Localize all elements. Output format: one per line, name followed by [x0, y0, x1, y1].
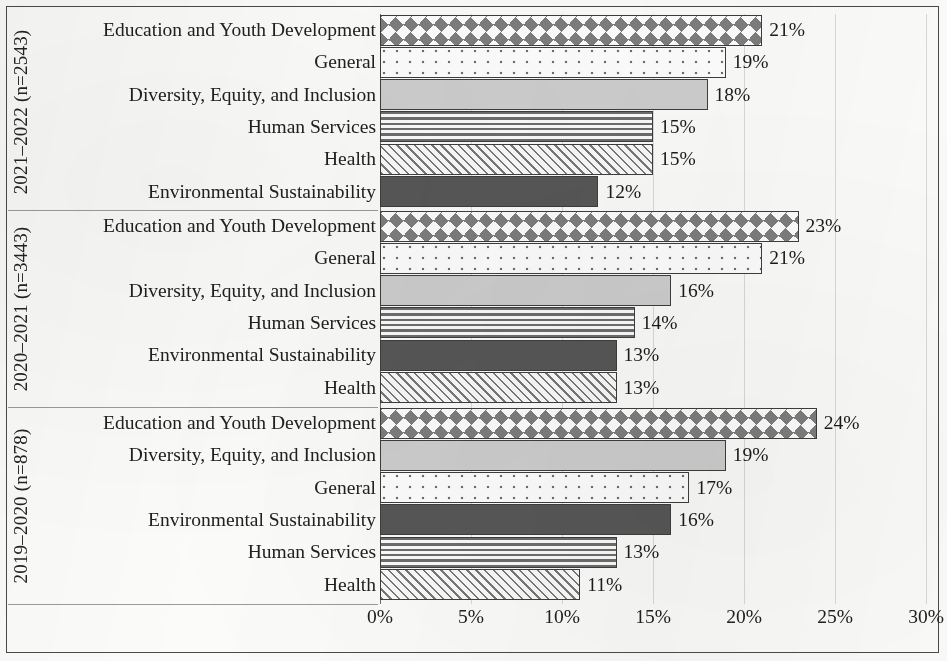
bar-row: Diversity, Equity, and Inclusion 19%	[380, 439, 929, 471]
category-label: Environmental Sustainability	[148, 176, 376, 208]
bar-row: Education and Youth Development 21%	[380, 14, 929, 46]
bar-value-label: 11%	[580, 569, 622, 601]
category-label: Health	[324, 372, 376, 404]
group-axis-label-text: 2020–2021 (n=3443)	[10, 226, 32, 391]
category-label: Human Services	[248, 111, 376, 143]
group-axis-label-2019-2020: 2019–2020 (n=878)	[0, 407, 42, 604]
bar-value-label: 12%	[598, 176, 641, 208]
bar	[380, 275, 671, 306]
bar-value-label: 14%	[635, 307, 678, 339]
group-axis-label-2020-2021: 2020–2021 (n=3443)	[0, 210, 42, 407]
bar-row: Human Services 14%	[380, 307, 929, 339]
bar	[380, 372, 617, 403]
bar-row: General 17%	[380, 472, 929, 504]
group-axis-label-2021-2022: 2021–2022 (n=2543)	[0, 14, 42, 210]
category-label: Health	[324, 569, 376, 601]
bar	[380, 211, 799, 242]
category-label: Human Services	[248, 536, 376, 568]
bar-row: Environmental Sustainability 16%	[380, 504, 929, 536]
plot-area: Education and Youth Development 21% Gene…	[380, 14, 929, 604]
x-tick-label: 5%	[458, 606, 484, 628]
bar	[380, 340, 617, 371]
category-label: Diversity, Equity, and Inclusion	[129, 439, 376, 471]
group-axis-label-text: 2019–2020 (n=878)	[10, 428, 32, 583]
bar-value-label: 13%	[617, 339, 660, 371]
bar	[380, 144, 653, 175]
bar-row: General 21%	[380, 242, 929, 274]
scanned-page: 2021–2022 (n=2543) 2020–2021 (n=3443) 20…	[0, 0, 947, 661]
bar-row: Education and Youth Development 23%	[380, 210, 929, 242]
bar-value-label: 19%	[726, 46, 769, 78]
category-label: Environmental Sustainability	[148, 504, 376, 536]
category-label: Education and Youth Development	[103, 407, 376, 439]
category-label: Diversity, Equity, and Inclusion	[129, 79, 376, 111]
bar	[380, 111, 653, 142]
category-label: Education and Youth Development	[103, 14, 376, 46]
bar	[380, 176, 598, 207]
bar-value-label: 16%	[671, 504, 714, 536]
bar	[380, 15, 762, 46]
bar	[380, 440, 726, 471]
bar	[380, 504, 671, 535]
bar-value-label: 21%	[762, 14, 805, 46]
bar-value-label: 18%	[708, 79, 751, 111]
category-label: Human Services	[248, 307, 376, 339]
category-label: Diversity, Equity, and Inclusion	[129, 275, 376, 307]
category-label: Health	[324, 143, 376, 175]
bar-value-label: 21%	[762, 242, 805, 274]
x-tick-label: 10%	[544, 606, 580, 628]
bar-row: Education and Youth Development 24%	[380, 407, 929, 439]
bar	[380, 408, 817, 439]
bar-value-label: 16%	[671, 275, 714, 307]
x-tick-label: 0%	[367, 606, 393, 628]
x-tick-label: 25%	[817, 606, 853, 628]
bar	[380, 47, 726, 78]
bar-value-label: 19%	[726, 439, 769, 471]
bar-value-label: 15%	[653, 111, 696, 143]
bar-value-label: 15%	[653, 143, 696, 175]
bar-row: Human Services 15%	[380, 111, 929, 143]
bar	[380, 307, 635, 338]
category-label: General	[314, 472, 376, 504]
category-label: Environmental Sustainability	[148, 339, 376, 371]
bar	[380, 537, 617, 568]
bar-row: Diversity, Equity, and Inclusion 16%	[380, 275, 929, 307]
x-tick-label: 15%	[635, 606, 671, 628]
bar-row: Health 11%	[380, 569, 929, 601]
x-axis: 0% 5% 10% 15% 20% 25% 30%	[380, 604, 929, 638]
group-separator	[8, 604, 378, 605]
bar-row: General 19%	[380, 46, 929, 78]
x-tick-label: 30%	[908, 606, 944, 628]
group-axis-label-text: 2021–2022 (n=2543)	[10, 30, 32, 195]
bar-value-label: 17%	[689, 472, 732, 504]
bar-row: Health 13%	[380, 372, 929, 404]
bar-value-label: 23%	[799, 210, 842, 242]
bar	[380, 472, 689, 503]
category-label: General	[314, 242, 376, 274]
category-label: Education and Youth Development	[103, 210, 376, 242]
bar-value-label: 13%	[617, 372, 660, 404]
bar-row: Health 15%	[380, 143, 929, 175]
bar-row: Environmental Sustainability 13%	[380, 339, 929, 371]
x-tick-label: 20%	[726, 606, 762, 628]
bar-row: Diversity, Equity, and Inclusion 18%	[380, 79, 929, 111]
bar-value-label: 24%	[817, 407, 860, 439]
bar	[380, 79, 708, 110]
bar-row: Environmental Sustainability 12%	[380, 176, 929, 208]
bar	[380, 569, 580, 600]
bar-row: Human Services 13%	[380, 536, 929, 568]
bar-value-label: 13%	[617, 536, 660, 568]
category-label: General	[314, 46, 376, 78]
bar	[380, 243, 762, 274]
